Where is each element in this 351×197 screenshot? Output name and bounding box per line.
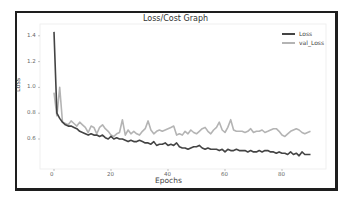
legend-label: Loss (299, 29, 312, 38)
y-tick-label: 0.8 (27, 109, 36, 115)
legend-label: val_Loss (299, 38, 324, 47)
legend: Loss val_Loss (282, 29, 324, 47)
x-tick-label: 40 (164, 171, 171, 177)
x-tick-label: 80 (278, 171, 285, 177)
y-tick-label: 1.4 (27, 32, 36, 38)
x-tick-label: 0 (50, 171, 54, 177)
x-tick-label: 60 (221, 171, 228, 177)
legend-item-loss: Loss (282, 29, 324, 38)
y-tick-label: 0.6 (27, 135, 36, 141)
loss-swatch-icon (282, 33, 295, 35)
chart-title: Loss/Cost Graph (0, 14, 351, 23)
legend-item-val-loss: val_Loss (282, 38, 324, 47)
y-tick-label: 1.0 (27, 83, 36, 89)
x-axis-label: Epochs (155, 176, 182, 185)
x-tick-label: 20 (107, 171, 114, 177)
y-tick-label: 1.2 (27, 58, 36, 64)
val-loss-swatch-icon (282, 42, 295, 44)
y-axis-label: Loss (14, 78, 22, 92)
